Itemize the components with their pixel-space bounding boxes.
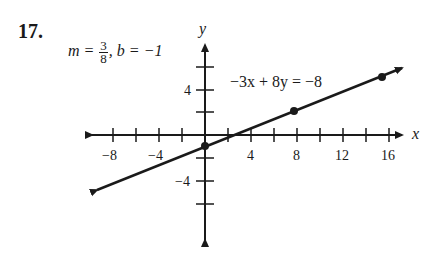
y-axis-label: y bbox=[197, 20, 207, 38]
x-tick-label-16: 16 bbox=[381, 148, 395, 163]
y-tick-label-4: 4 bbox=[184, 83, 191, 98]
x-tick-label-8: 8 bbox=[293, 148, 300, 163]
y-tick-label-neg4: −4 bbox=[175, 174, 190, 189]
point-0-neg1 bbox=[201, 142, 209, 150]
x-tick-label-neg8: −8 bbox=[102, 148, 117, 163]
line-equation-label: −3x + 8y = −8 bbox=[230, 73, 322, 91]
point-16-5 bbox=[378, 73, 386, 81]
coordinate-plane: −8 −4 4 8 12 16 4 −4 x y −3x + 8y = −8 bbox=[0, 0, 439, 257]
x-tick-label-12: 12 bbox=[335, 148, 349, 163]
point-8-2 bbox=[290, 107, 298, 115]
x-tick-label-neg4: −4 bbox=[148, 148, 163, 163]
x-tick-label-4: 4 bbox=[247, 148, 254, 163]
x-axis-label: x bbox=[411, 125, 419, 142]
